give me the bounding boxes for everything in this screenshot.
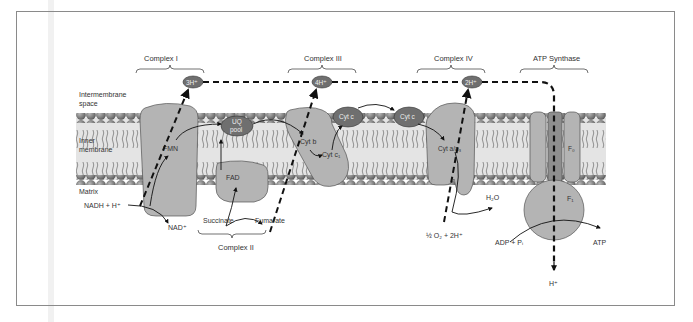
complex-iii-brace <box>288 65 356 73</box>
cyt-b-label: Cyt b <box>300 138 316 146</box>
cyt-c1-label: Cyt c₁ <box>322 151 341 159</box>
complex-iv-brace <box>417 65 485 73</box>
complex-ii-shape <box>216 161 268 202</box>
complex-i-label: Complex I <box>144 54 178 63</box>
complex-ii-label: Complex II <box>218 243 254 252</box>
svg-text:3H⁺: 3H⁺ <box>186 79 198 86</box>
atp-synthase-brace <box>520 65 588 73</box>
atp-synthase-label: ATP Synthase <box>533 54 580 63</box>
atp-label: ATP <box>593 239 606 246</box>
complex-ii-brace <box>198 230 266 238</box>
proton-out-label: H⁺ <box>549 280 558 287</box>
adp-label: ADP + Pᵢ <box>495 239 523 246</box>
fumarate-label: Fumarate <box>255 217 285 224</box>
complex-i-shape <box>140 103 198 216</box>
f1-label: F₁ <box>567 195 574 202</box>
complex-iv-label: Complex IV <box>434 54 473 63</box>
inner-membrane-label: Inner <box>79 137 96 144</box>
intermembrane-label-2: space <box>79 100 98 108</box>
inner-membrane-label-2: membrane <box>79 146 113 153</box>
etc-diagram: Intermembrane space Inner membrane Matri… <box>0 0 693 322</box>
svg-text:4H⁺: 4H⁺ <box>315 79 327 86</box>
svg-text:2H⁺: 2H⁺ <box>465 79 477 86</box>
intermembrane-label: Intermembrane <box>79 91 127 98</box>
pool-label: pool <box>230 126 243 134</box>
matrix-label: Matrix <box>79 188 99 195</box>
f0-label: F₀ <box>568 145 575 152</box>
water-label: H₂O <box>486 194 500 201</box>
cyt-c-label-1: Cyt c <box>339 113 355 121</box>
nad-label: NAD⁺ <box>168 224 187 231</box>
succinate-label: Succinate <box>203 217 234 224</box>
uq-label: UQ <box>232 118 242 126</box>
cyt-c-label-2: Cyt c <box>400 113 416 121</box>
f0-subunit-left <box>530 112 546 182</box>
oxygen-label: ½ O₂ + 2H⁺ <box>426 232 463 239</box>
fad-label: FAD <box>226 174 240 181</box>
complex-i-brace <box>136 65 204 73</box>
complex-iii-label: Complex III <box>304 54 342 63</box>
cytc-shuttle-arrow <box>358 104 394 110</box>
nadh-label: NADH + H⁺ <box>84 202 121 209</box>
